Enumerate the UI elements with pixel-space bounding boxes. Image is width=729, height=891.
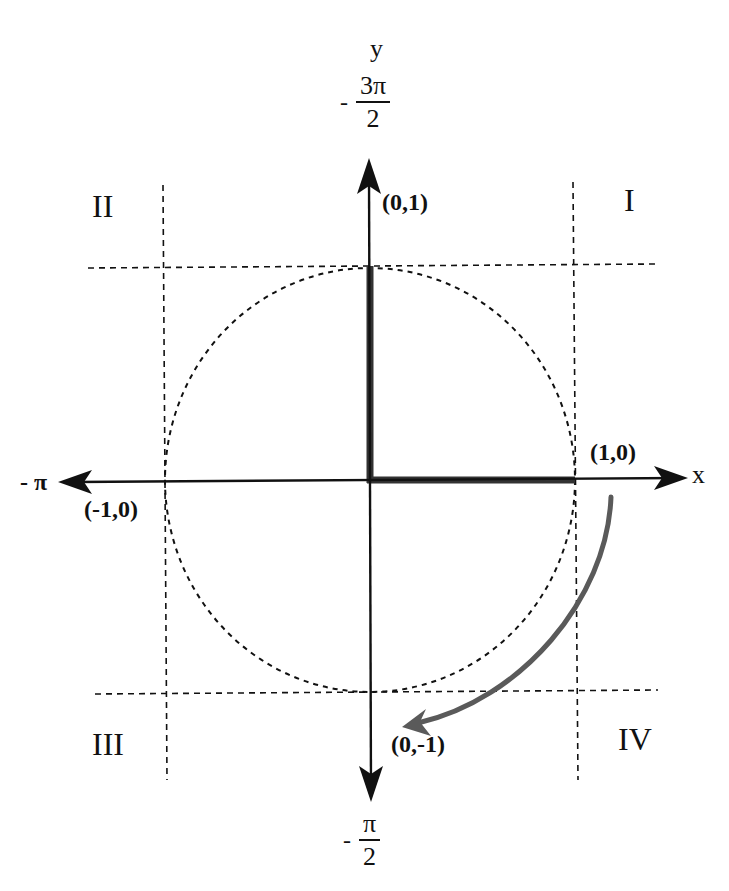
quadrant-label-IV: IV (618, 723, 652, 755)
quadrant-label-II: II (92, 190, 113, 222)
bottom-angle-label: - π 2 (343, 810, 380, 871)
point-label-0-neg1: (0,-1) (391, 732, 445, 756)
left-angle-value: π (34, 469, 47, 495)
unit-circle-diagram: y x - 3π 2 - π 2 - π (0,1) (1,0) (-1,0) … (0, 0, 729, 891)
bottom-angle-denominator: 2 (363, 841, 376, 870)
top-angle-sign: - (340, 89, 348, 116)
left-angle-label: - π (20, 470, 47, 494)
bottom-angle-numerator: π (359, 810, 380, 841)
point-label-neg1-0: (-1,0) (84, 497, 138, 521)
highlighted-radii (367, 266, 575, 483)
quadrant-label-I: I (624, 184, 635, 216)
point-label-0-1: (0,1) (382, 190, 428, 214)
point-label-1-0: (1,0) (590, 440, 636, 464)
top-angle-label: - 3π 2 (340, 72, 390, 133)
top-angle-denominator: 2 (367, 103, 380, 132)
y-axis-label: y (370, 36, 383, 62)
bottom-angle-sign: - (343, 827, 351, 854)
quadrant-label-III: III (92, 728, 124, 760)
rotation-arc (418, 497, 611, 723)
top-angle-numerator: 3π (356, 72, 390, 103)
x-axis-label: x (692, 462, 705, 488)
left-angle-sign: - (20, 469, 28, 495)
